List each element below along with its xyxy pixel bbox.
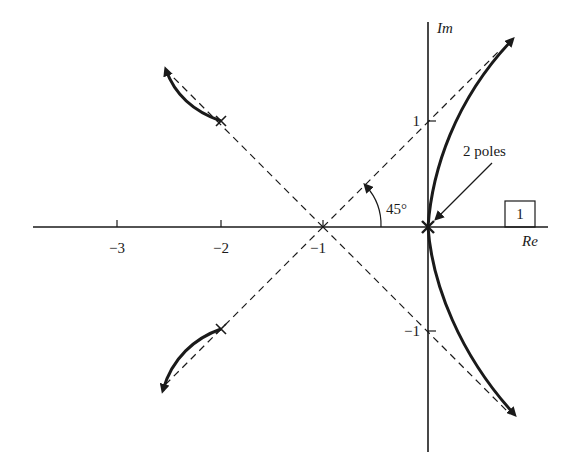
annotation-arrow xyxy=(437,163,492,218)
imag-tick-label: 1 xyxy=(413,113,421,129)
boxed-label-text: 1 xyxy=(516,206,524,222)
imag-axis-label: Im xyxy=(436,20,453,36)
root-locus-diagram: 1 Im Re 2 poles 45° −3 −2 −1 1 −1 xyxy=(0,0,573,468)
asymptote-ne xyxy=(323,50,500,227)
branch-lower-right xyxy=(428,227,514,414)
asymptote-se xyxy=(323,227,510,414)
asymptote-sw xyxy=(163,227,323,387)
angle-label: 45° xyxy=(386,201,407,217)
real-axis-ticks xyxy=(117,220,323,227)
angle-arc xyxy=(366,186,381,227)
asymptote-nw xyxy=(165,69,323,227)
real-tick-label: −2 xyxy=(213,240,229,256)
annotation-label: 2 poles xyxy=(463,143,506,159)
imag-tick-label: −1 xyxy=(404,323,420,339)
asymptotes xyxy=(163,50,510,414)
real-axis-label: Re xyxy=(521,233,538,249)
real-tick-label: −1 xyxy=(310,240,326,256)
branch-upper-right xyxy=(428,40,512,227)
real-tick-label: −3 xyxy=(109,240,125,256)
